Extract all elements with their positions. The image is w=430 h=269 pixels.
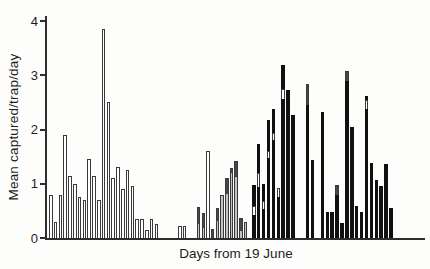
bar-segment-black [291,115,295,238]
bar-period-1-open-bars [54,222,58,238]
y-tick-label: 0 [14,232,38,245]
bar-segment-light [216,220,220,238]
bar-segment-open [116,167,120,238]
bar-period-1-open-bars [59,195,63,238]
bar-segment-dark [335,185,339,195]
bar-segment-open [63,135,67,238]
bar-period-1-open-bars [87,159,91,238]
x-axis-line [45,238,425,240]
bar-segment-black [281,65,285,89]
x-axis-label: Days from 19 June [46,246,426,261]
bar-segment-black [267,120,271,151]
bar-segment-light [239,230,243,238]
bar-period-1-open-bars [140,219,144,238]
bar-segment-black [262,184,266,201]
bar-period-1-open-bars [102,29,106,238]
bar-segment-open [262,201,266,209]
bar-segment-black [257,187,261,238]
y-tick-mark [40,183,46,185]
bar-period-2-gray-stacked-bars [230,168,234,238]
y-tick-label: 4 [14,15,38,28]
bar-period-3-black-bars [370,163,374,238]
bar-period-1-open-bars [68,176,72,238]
bar-segment-dark [197,207,201,223]
bar-segment-black [379,186,383,238]
bar-segment-black [272,140,276,238]
bar-period-3-black-bars [321,112,325,238]
bar-segment-open [73,184,77,238]
y-tick-mark [40,129,46,131]
bar-segment-open [145,230,149,238]
bar-segment-open [102,29,106,238]
bar-period-3-black-bars [291,115,295,238]
bar-period-1-open-bars [155,224,159,238]
bar-period-3-black-bars [286,90,290,238]
bar-segment-dark [345,71,349,81]
bar-period-3-black-bars [350,127,354,238]
bar-segment-light [230,172,234,238]
bar-segment-open [121,189,125,238]
bar-segment-black [340,223,344,238]
bar-period-1-open-bars [78,197,82,238]
bar-segment-black [281,99,285,238]
bar-segment-black [330,212,334,238]
bar-period-2-gray-stacked-bars [206,151,210,238]
bar-period-1-open-bars [63,135,67,238]
bar-period-3-black-bars [365,96,369,238]
bar-segment-open [155,224,159,238]
bar-period-3-black-bars [384,164,388,238]
y-tick-label: 3 [14,69,38,82]
bar-segment-open [140,219,144,238]
bar-segment-light [244,222,248,238]
bar-segment-black [384,164,388,238]
bar-segment-light [220,195,224,238]
bar-segment-black [389,208,393,238]
bar-period-1-open-bars [135,219,139,238]
bar-segment-open [277,188,281,197]
bar-period-3-black-bars [330,212,334,238]
bar-segment-open [206,151,210,238]
bar-period-3-black-bars [379,186,383,238]
bar-segment-black [252,215,256,238]
bar-segment-open [68,176,72,238]
bar-period-3-black-bars [335,185,339,238]
bar-period-2-gray-stacked-bars [211,229,215,238]
bar-segment-dark [239,218,243,230]
bar-segment-black [306,105,310,238]
bar-period-1-open-bars [49,195,53,238]
y-tick-mark [40,20,46,22]
bar-segment-open [59,195,63,238]
bar-segment-light [225,193,229,238]
bar-segment-open [97,200,101,238]
bar-segment-open [257,173,261,187]
bar-period-2-gray-stacked-bars [197,207,201,238]
figure: Mean captured/trap/day Days from 19 June… [0,0,430,269]
bar-segment-open [49,195,53,238]
bar-segment-open [178,226,182,238]
bar-segment-black [252,185,256,206]
bar-segment-open [54,222,58,238]
bar-segment-black [370,163,374,238]
bar-period-1-open-bars [116,167,120,238]
bar-segment-black [272,109,276,133]
bar-segment-dark [306,84,310,105]
bar-segment-open [281,89,285,99]
bar-segment-open [365,100,369,109]
bar-period-2-gray-stacked-bars [220,195,224,238]
bar-segment-open [83,200,87,238]
bar-period-2-gray-stacked-bars [244,222,248,238]
bar-period-3-black-bars [311,160,315,238]
bar-period-2-gray-stacked-bars [239,218,243,238]
y-tick-mark [40,237,46,239]
bar-period-3-black-bars [355,206,359,238]
bar-segment-open [150,219,154,238]
bar-period-1-open-bars [131,186,135,238]
bar-period-1-open-bars [83,200,87,238]
bar-period-3-black-bars [360,212,364,238]
bar-segment-black [335,195,339,238]
bar-period-1-open-bars [97,200,101,238]
bar-segment-open [78,197,82,238]
bar-segment-black [267,158,271,238]
bar-period-3-black-bars [340,223,344,238]
bar-segment-black [365,109,369,238]
